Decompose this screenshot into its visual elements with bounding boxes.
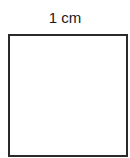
dimension-label: 1 cm (0, 9, 130, 27)
square-shape (8, 34, 128, 157)
